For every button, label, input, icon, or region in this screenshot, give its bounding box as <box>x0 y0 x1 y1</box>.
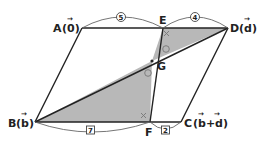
parallelogram-diagram: 5 4 7 2 A (0) → D (d) → B (b) → C (b+d) … <box>0 0 266 141</box>
ratio-ED-value: 4 <box>193 14 198 22</box>
vector-arrow-D: → <box>244 15 250 23</box>
ratio-BF-value: 7 <box>88 127 93 135</box>
label-C: C <box>184 117 192 130</box>
point-G-dot <box>150 59 153 62</box>
ratio-FC-value: 2 <box>163 127 168 135</box>
label-F: F <box>145 126 153 139</box>
ratio-AE-circled: 5 <box>117 13 126 22</box>
label-D-vector: (d) <box>239 22 257 35</box>
vector-arrow-C-d: → <box>214 110 220 118</box>
label-A-vector: (0) <box>62 22 80 35</box>
label-D: D <box>230 22 239 35</box>
ratio-BF-boxed: 7 <box>87 126 95 135</box>
vector-arrow-B: → <box>21 110 27 118</box>
ratio-AE-value: 5 <box>119 14 124 22</box>
label-G: G <box>157 60 166 73</box>
ratio-FC-boxed: 2 <box>162 126 170 135</box>
vector-arrow-A: → <box>67 15 73 23</box>
label-E: E <box>159 14 167 27</box>
segment-EF <box>150 28 163 122</box>
label-B-vector: (b) <box>16 117 34 130</box>
label-C-vector: (b+d) <box>193 117 228 130</box>
vector-arrow-C-b: → <box>198 110 204 118</box>
label-A: A <box>53 22 62 35</box>
ratio-ED-circled: 4 <box>191 13 200 22</box>
